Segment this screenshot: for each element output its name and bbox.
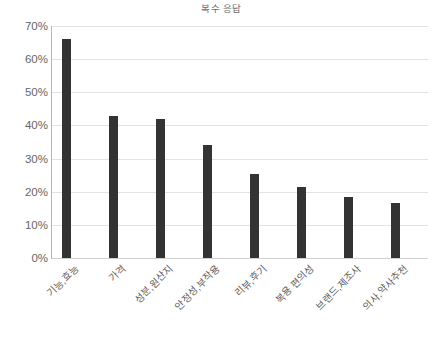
bar <box>62 39 71 258</box>
y-axis-tick-label: 70% <box>4 20 48 32</box>
y-axis-tick-label: 0% <box>4 252 48 264</box>
bar-chart: 복수 응답 70%60%50%40%30%20%10%0% 기능,효능가격성분,… <box>0 0 443 339</box>
x-axis-label: 복용 편의성 <box>273 263 315 305</box>
x-axis-label: 안정성,부작용 <box>173 263 222 312</box>
y-axis-tick-label: 10% <box>4 219 48 231</box>
x-axis-category-labels: 기능,효능가격성분,원산지안정성,부작용리뷰,후기복용 편의성브랜드,제조사의사… <box>52 259 428 339</box>
x-axis-label: 리뷰,후기 <box>233 263 269 299</box>
y-axis-tick-label: 40% <box>4 119 48 131</box>
y-axis-tick-label: 20% <box>4 186 48 198</box>
bar <box>344 197 353 258</box>
x-axis-label: 의사,약사추천 <box>361 263 410 312</box>
bar <box>391 203 400 258</box>
bar <box>156 119 165 258</box>
y-axis-tick-labels: 70%60%50%40%30%20%10%0% <box>0 26 48 258</box>
plot-area <box>52 26 428 258</box>
y-axis-tick-label: 30% <box>4 153 48 165</box>
chart-title: 복수 응답 <box>0 2 443 15</box>
x-axis-label: 가격 <box>107 263 128 284</box>
y-axis-tick-label: 50% <box>4 86 48 98</box>
bar <box>297 187 306 258</box>
gridline <box>52 59 428 60</box>
bar <box>250 174 259 258</box>
x-axis-label: 브랜드,제조사 <box>314 263 363 312</box>
y-axis-tick-label: 60% <box>4 53 48 65</box>
gridline <box>52 92 428 93</box>
x-axis-label: 성분,원산지 <box>132 263 174 305</box>
bar <box>109 116 118 259</box>
gridline <box>52 26 428 27</box>
bar <box>203 145 212 258</box>
x-axis-label: 기능,효능 <box>45 263 81 299</box>
